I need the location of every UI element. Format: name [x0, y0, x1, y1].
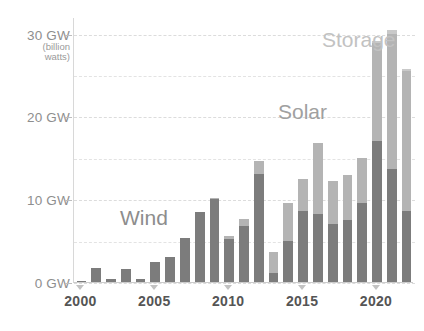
bar-2015 [298, 179, 308, 282]
bar-segment-wind [136, 279, 146, 282]
bar-segment-solar [402, 71, 412, 211]
y-axis-tick-label: 30 GW [27, 27, 70, 42]
x-axis-tick-marker [150, 285, 158, 290]
y-axis-tick-label: 20 GW [27, 110, 70, 125]
bar-2010 [224, 236, 234, 282]
bar-segment-wind [224, 239, 234, 282]
bar-2016 [313, 143, 323, 282]
y-axis-tick-mark [65, 117, 72, 118]
bar-segment-solar [254, 161, 264, 173]
bar-2001 [91, 268, 101, 282]
bar-segment-wind [254, 174, 264, 282]
x-axis-tick-label: 2015 [286, 293, 318, 309]
series-label-wind: Wind [120, 206, 168, 230]
x-axis-tick-marker [224, 285, 232, 290]
y-axis-tick-mark [65, 35, 72, 36]
series-label-storage: Storage [322, 28, 396, 52]
bar-segment-wind [77, 281, 87, 282]
x-axis-tick-marker [372, 285, 380, 290]
bar-2022 [402, 69, 412, 282]
series-label-solar: Solar [278, 100, 327, 124]
gridline [74, 283, 415, 284]
bar-2006 [165, 257, 175, 282]
y-axis-unit-note-line2: watts) [43, 52, 70, 63]
bar-2021 [387, 30, 397, 282]
bar-segment-solar [313, 143, 323, 214]
bar-segment-wind [357, 203, 367, 282]
y-axis-tick-mark [65, 200, 72, 201]
bar-2003 [121, 269, 131, 282]
x-axis-tick-label: 2000 [64, 293, 96, 309]
bar-segment-wind [372, 141, 382, 282]
bar-segment-wind [121, 269, 131, 282]
bar-segment-solar [387, 34, 397, 170]
bar-2011 [239, 219, 249, 282]
bar-segment-wind [195, 212, 205, 282]
bar-segment-wind [343, 220, 353, 282]
bar-2008 [195, 212, 205, 282]
bar-2007 [180, 238, 190, 282]
bar-segment-solar [269, 252, 279, 273]
bar-2012 [254, 161, 264, 282]
bars-layer [74, 18, 413, 282]
x-axis-tick-label: 2020 [360, 293, 392, 309]
bar-segment-wind [150, 262, 160, 282]
bar-2013 [269, 252, 279, 282]
bar-segment-wind [239, 226, 249, 282]
bar-2020 [372, 41, 382, 282]
bar-2014 [283, 203, 293, 282]
y-axis-unit-note: (billionwatts) [43, 42, 70, 63]
bar-2017 [328, 181, 338, 282]
bar-2009 [210, 198, 220, 282]
bar-2004 [136, 279, 146, 282]
bar-2005 [150, 262, 160, 282]
bar-segment-wind [298, 211, 308, 282]
bar-segment-wind [402, 211, 412, 282]
bar-segment-wind [328, 224, 338, 282]
y-axis-tick-label: 10 GW [27, 193, 70, 208]
bar-segment-wind [313, 214, 323, 282]
bar-segment-wind [283, 241, 293, 282]
bar-segment-wind [387, 169, 397, 282]
bar-segment-solar [298, 179, 308, 210]
x-axis-tick-marker [298, 285, 306, 290]
y-axis-tick-mark [65, 283, 72, 284]
bar-segment-wind [165, 257, 175, 282]
x-axis-tick-label: 2010 [212, 293, 244, 309]
chart-container: 0 GW10 GW20 GW30 GW(billionwatts) 200020… [0, 0, 424, 331]
bar-2002 [106, 279, 116, 282]
bar-segment-solar [239, 219, 249, 226]
x-axis-tick-label: 2005 [138, 293, 170, 309]
bar-2000 [77, 281, 87, 282]
bar-2018 [343, 175, 353, 282]
bar-segment-solar [357, 158, 367, 204]
bar-segment-solar [328, 181, 338, 224]
bar-segment-wind [210, 199, 220, 282]
bar-segment-solar [343, 175, 353, 220]
bar-segment-wind [91, 268, 101, 282]
bar-segment-wind [269, 273, 279, 282]
bar-segment-solar [283, 203, 293, 241]
bar-2019 [357, 158, 367, 282]
x-axis-tick-marker [76, 285, 84, 290]
bar-segment-wind [180, 238, 190, 282]
bar-segment-wind [106, 279, 116, 282]
bar-segment-solar [372, 43, 382, 142]
plot-area [73, 18, 413, 283]
